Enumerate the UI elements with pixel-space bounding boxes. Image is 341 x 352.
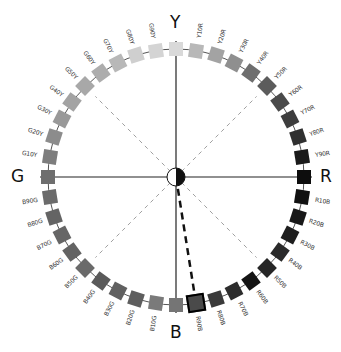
hue-swatch-g10y: [42, 149, 58, 165]
hue-swatch-b90g: [42, 189, 58, 205]
axis-label-y: Y: [170, 12, 180, 32]
axis-label-g: G: [11, 166, 24, 186]
color-circle-diagram: Y10RY20RY30RY40RY50RY60RY70RY80RY90RR10B…: [0, 0, 341, 352]
highlighted-hue-line: [176, 177, 194, 294]
diagonal-dashed-line: [95, 96, 176, 177]
hue-swatch-g: [41, 170, 55, 184]
diagonal-dashed-line: [95, 177, 176, 258]
hue-swatch-b: [169, 298, 183, 312]
hue-swatch-y10r: [188, 43, 204, 59]
hue-swatch-b10g: [148, 295, 164, 311]
diagonal-dashed-line: [176, 177, 257, 258]
center-neutral-icon: [167, 168, 185, 186]
hue-swatch-r10b: [294, 189, 310, 205]
hue-swatch-r90b: [186, 293, 207, 314]
hue-swatch-g90y: [148, 43, 164, 59]
diagonal-dashed-line: [176, 96, 257, 177]
axis-label-r: R: [320, 166, 332, 186]
hue-swatch-r: [297, 170, 311, 184]
axis-label-b: B: [170, 322, 182, 342]
hue-swatch-y90r: [294, 149, 310, 165]
hue-swatch-y: [169, 42, 183, 56]
